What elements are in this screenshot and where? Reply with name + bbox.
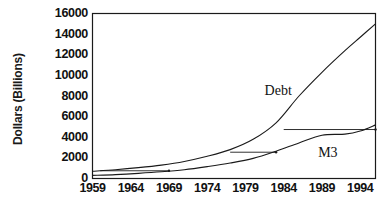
series-label-m3: M3 bbox=[318, 145, 337, 161]
plot-area bbox=[0, 0, 392, 209]
lag-connector-2-endcap bbox=[275, 151, 277, 153]
series-label-debt: Debt bbox=[265, 83, 292, 99]
x-axis-tick-labels: 19591964196919741979198419891994 bbox=[0, 182, 392, 204]
chart-figure: Dollars (Billions) 020004000600080001000… bbox=[0, 0, 392, 209]
lag-connector-3-endcap bbox=[374, 128, 376, 130]
x-tick-label: 1994 bbox=[337, 182, 383, 195]
lag-connector-1-endcap bbox=[168, 170, 170, 172]
